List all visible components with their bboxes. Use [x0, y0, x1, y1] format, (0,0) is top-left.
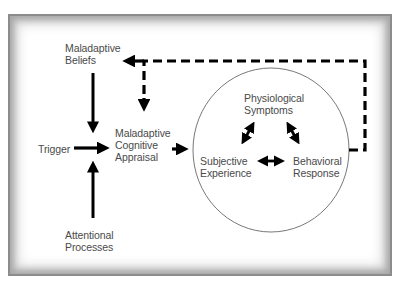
node-maladaptive-beliefs: Maladaptive Beliefs [65, 42, 121, 66]
node-subjective-experience: Subjective Experience [200, 155, 252, 179]
arrow-physio-subjective [244, 126, 252, 140]
node-physiological-symptoms: Physiological Symptoms [244, 92, 304, 116]
node-attentional-processes: Attentional Processes [65, 229, 114, 253]
node-cognitive-appraisal: Maladaptive Cognitive Appraisal [115, 127, 171, 163]
node-trigger: Trigger [38, 143, 70, 155]
node-behavioral-response: Behavioral Response [293, 155, 342, 179]
arrow-physio-behavioral [289, 126, 297, 140]
